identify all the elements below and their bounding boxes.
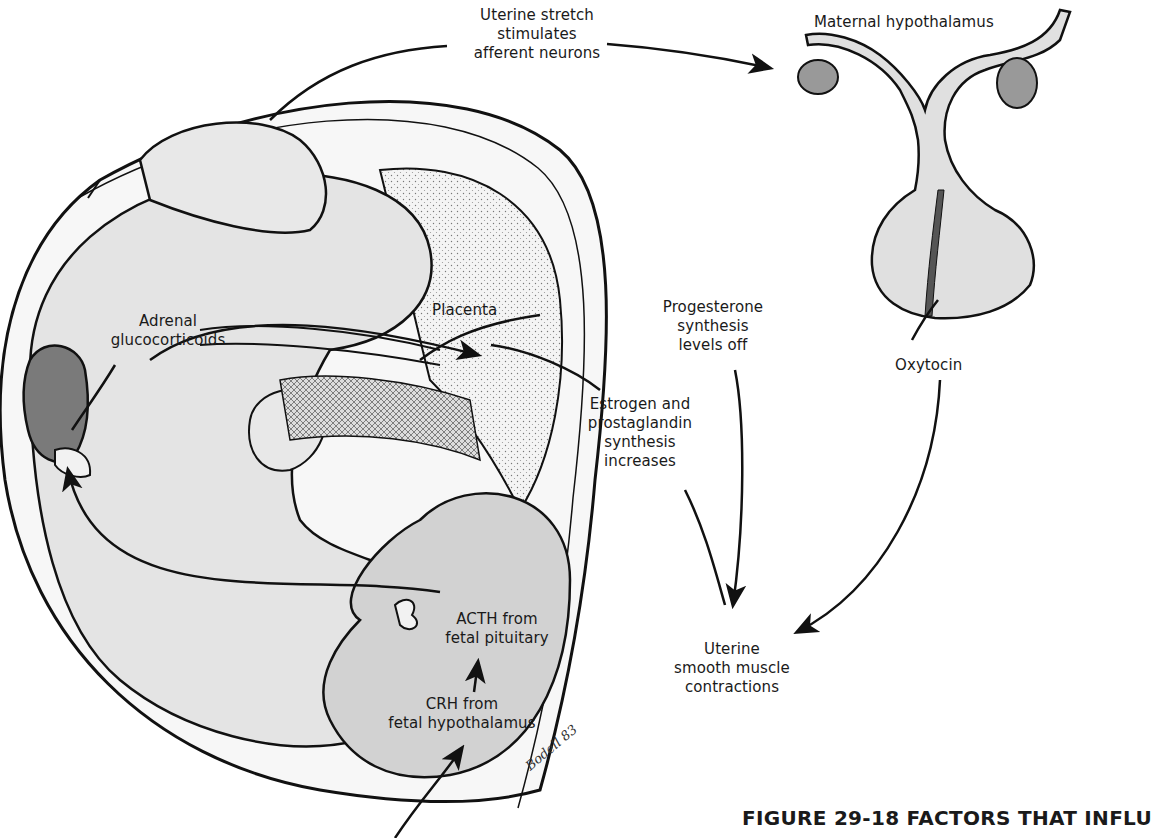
label-progesterone-line1: Progesterone [648, 298, 778, 317]
label-crh-line2: fetal hypothalamus [372, 714, 552, 733]
arrow-stretch-to-hypothalamus [607, 44, 770, 68]
label-acth-line2: fetal pituitary [432, 629, 562, 648]
label-progesterone-line2: synthesis [648, 317, 778, 336]
label-oxytocin: Oxytocin [895, 356, 962, 375]
label-uterine-stretch-line3: afferent neurons [462, 44, 612, 63]
label-placenta: Placenta [432, 301, 497, 320]
label-crh: CRH from fetal hypothalamus [372, 695, 552, 733]
label-estrogen-line4: increases [575, 452, 705, 471]
arrow-estrogen-to-contractions [685, 490, 725, 605]
label-contractions-line3: contractions [662, 678, 802, 697]
label-contractions-line1: Uterine [662, 640, 802, 659]
label-progesterone-line3: levels off [648, 336, 778, 355]
label-adrenal: Adrenal glucocorticoids [98, 312, 238, 350]
label-acth-line1: ACTH from [432, 610, 562, 629]
label-maternal-hypothalamus: Maternal hypothalamus [814, 13, 994, 32]
label-estrogen-line2: prostaglandin [575, 414, 705, 433]
label-estrogen: Estrogen and prostaglandin synthesis inc… [575, 395, 705, 471]
label-contractions: Uterine smooth muscle contractions [662, 640, 802, 697]
label-adrenal-line1: Adrenal [98, 312, 238, 331]
label-crh-line1: CRH from [372, 695, 552, 714]
label-acth: ACTH from fetal pituitary [432, 610, 562, 648]
maternal-pituitary [798, 10, 1070, 318]
arrow-progesterone-to-contractions [733, 370, 742, 605]
label-uterine-stretch-line2: stimulates [462, 25, 612, 44]
label-uterine-stretch-line1: Uterine stretch [462, 6, 612, 25]
label-progesterone: Progesterone synthesis levels off [648, 298, 778, 355]
label-uterine-stretch: Uterine stretch stimulates afferent neur… [462, 6, 612, 63]
label-contractions-line2: smooth muscle [662, 659, 802, 678]
label-estrogen-line3: synthesis [575, 433, 705, 452]
label-adrenal-line2: glucocorticoids [98, 331, 238, 350]
arrow-oxytocin-to-contractions [797, 380, 940, 632]
label-estrogen-line1: Estrogen and [575, 395, 705, 414]
figure-caption: FIGURE 29-18 FACTORS THAT INFLU [742, 806, 1152, 830]
